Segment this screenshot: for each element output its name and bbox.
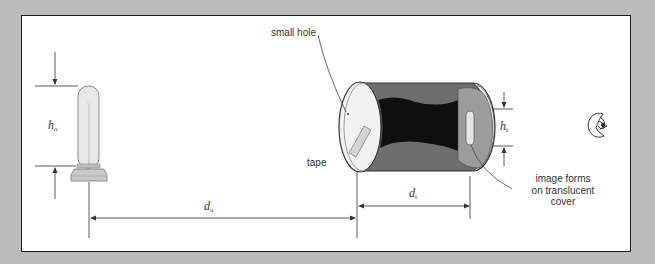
projected-image bbox=[466, 111, 474, 145]
small-hole-label: small hole bbox=[271, 27, 316, 38]
image-note-line-1: image forms bbox=[518, 173, 608, 185]
image-note-line-2: on translucent bbox=[518, 185, 608, 197]
tape-label: tape bbox=[307, 157, 326, 168]
pinhole-camera-figure bbox=[0, 0, 655, 264]
object-height-label: ho bbox=[48, 120, 58, 135]
pinhole bbox=[347, 113, 349, 115]
pinhole-camera-can bbox=[339, 82, 495, 172]
light-bulb-icon bbox=[71, 86, 107, 181]
eye-icon bbox=[588, 113, 607, 137]
image-note-line-3: cover bbox=[518, 196, 608, 208]
small-hole-leader bbox=[318, 35, 346, 112]
image-distance-label: di bbox=[409, 188, 417, 203]
image-forms-note: image forms on translucent cover bbox=[518, 173, 608, 208]
object-distance-dimension bbox=[89, 172, 357, 238]
image-height-label: hi bbox=[500, 121, 508, 136]
object-distance-label: do bbox=[204, 201, 214, 216]
